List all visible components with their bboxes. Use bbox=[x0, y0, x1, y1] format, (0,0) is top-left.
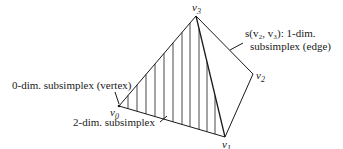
edge-annotation-line2: subsimplex (edge) bbox=[250, 40, 331, 52]
vertex-label-v3: v3 bbox=[192, 1, 201, 18]
edge-v2-v1 bbox=[225, 74, 253, 137]
edge-v3-v2 bbox=[196, 16, 253, 74]
leader-vertex bbox=[115, 92, 119, 104]
edge-v3-v1 bbox=[196, 16, 225, 137]
edge-annotation-line1: s(v₂, v₃): 1-dim. bbox=[245, 27, 316, 39]
vertex-label-v1: v1 bbox=[222, 138, 231, 149]
face-annotation: 2-dim. subsimplex bbox=[73, 116, 155, 128]
edge-v0-v3 bbox=[119, 16, 196, 106]
tetrahedron-figure bbox=[0, 0, 343, 149]
leader-edge bbox=[230, 43, 243, 50]
simplex-diagram: v3 v2 v0 v1 s(v₂, v₃): 1-dim. subsimplex… bbox=[0, 0, 343, 149]
vertex-label-v2: v2 bbox=[256, 69, 265, 86]
vertex-annotation: 0-dim. subsimplex (vertex) bbox=[12, 79, 131, 91]
leader-face bbox=[160, 116, 167, 122]
